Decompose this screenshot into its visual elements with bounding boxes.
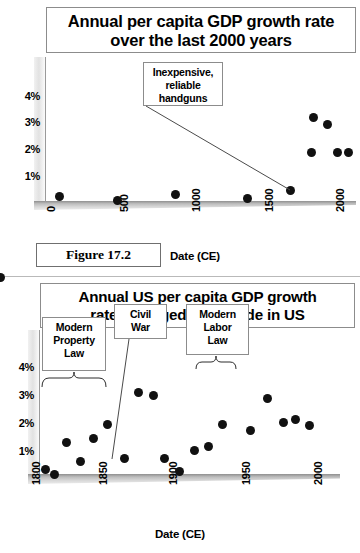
chart-panel-top: Annual per capita GDP growth rate over t… [0,0,360,277]
chart-panel-bottom: Annual US per capita GDP growth rate ave… [0,277,360,553]
annotation-handguns-leader [0,0,360,277]
figure-label: Figure 17.2 [36,243,161,267]
annotation-labor-brace [0,277,360,553]
